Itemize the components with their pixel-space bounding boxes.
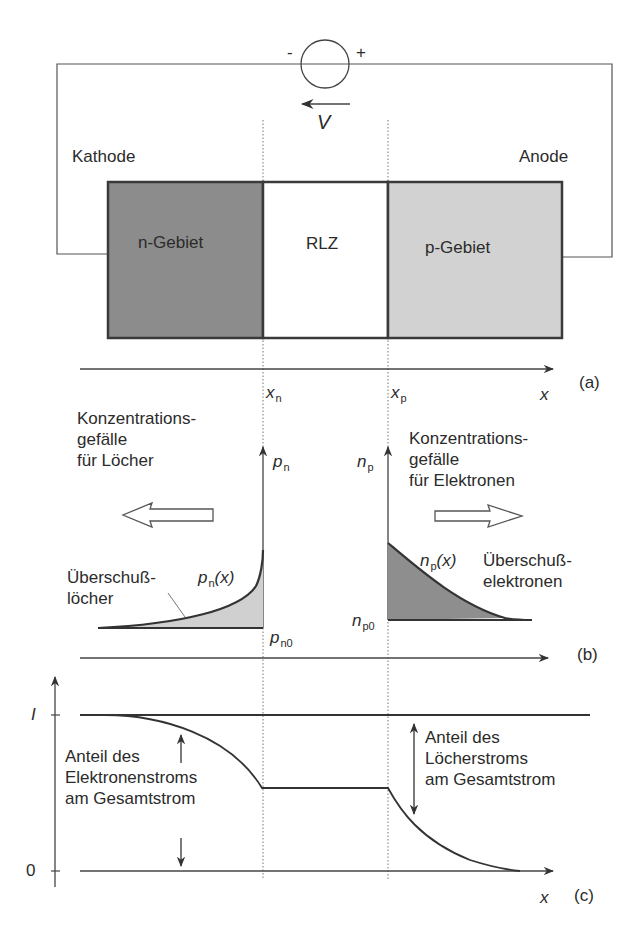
np-axis-label: np: [357, 451, 374, 474]
anode-label: Anode: [519, 146, 568, 167]
xn-label: xn: [266, 382, 282, 405]
excess-holes-text: Überschuß- löcher: [67, 567, 156, 609]
electron-gradient-arrow-icon: [435, 505, 522, 527]
rlz-label: RLZ: [306, 233, 338, 254]
panel-tag-a: (a): [579, 372, 600, 393]
source-minus-label: -: [287, 42, 293, 63]
hole-share-text: Anteil des Löcherstroms am Gesamtstrom: [425, 727, 555, 790]
np-curve-label: np(x): [420, 550, 456, 573]
excess-holes-pointer: [168, 593, 185, 617]
current-I-label: I: [31, 704, 36, 725]
np0-label: np0: [352, 610, 375, 633]
hole-gradient-text: Konzentrations- gefälle für Löcher: [77, 408, 196, 471]
pn0-label: pn0: [270, 627, 293, 650]
panel-tag-b: (b): [577, 644, 598, 665]
n-region-block: [108, 182, 263, 338]
x-axis-label-a: x: [540, 384, 549, 405]
panel-tag-c: (c): [574, 885, 594, 906]
cathode-label: Kathode: [72, 146, 135, 167]
xp-label: xp: [391, 382, 407, 405]
hole-gradient-arrow-icon: [123, 503, 213, 527]
voltage-label: V: [317, 112, 330, 133]
pn-curve-label: pn(x): [198, 567, 234, 590]
p-region-block: [388, 182, 562, 338]
rlz-block: [263, 182, 388, 338]
excess-electrons-text: Überschuß- elektronen: [483, 550, 572, 592]
electron-gradient-text: Konzentrations- gefälle für Elektronen: [409, 428, 528, 491]
electron-share-text: Anteil des Elektronenstroms am Gesamtstr…: [65, 746, 197, 809]
current-zero-label: 0: [26, 860, 35, 881]
pn-axis-label: pn: [273, 451, 290, 474]
n-region-label: n-Gebiet: [138, 232, 203, 253]
x-axis-label-c: x: [540, 887, 549, 908]
p-region-label: p-Gebiet: [425, 237, 490, 258]
source-plus-label: +: [356, 42, 366, 63]
